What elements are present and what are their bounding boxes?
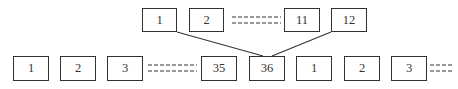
bottom-box-35: 35 <box>201 56 237 81</box>
diagram-canvas: 1 2 11 12 1 2 3 35 36 1 2 3 <box>0 0 458 89</box>
bottom-box-3-repeat: 3 <box>391 56 427 81</box>
connector-lines <box>177 32 331 56</box>
connector-line <box>177 32 263 56</box>
top-box-1: 1 <box>142 8 177 32</box>
top-box-11: 11 <box>284 8 320 32</box>
bottom-box-1: 1 <box>13 56 49 81</box>
connector-line <box>272 32 331 56</box>
bottom-box-3: 3 <box>107 56 143 81</box>
bottom-box-2-repeat: 2 <box>344 56 380 81</box>
top-box-12: 12 <box>331 8 367 32</box>
top-box-2: 2 <box>189 8 224 32</box>
bottom-box-1-repeat: 1 <box>296 56 332 81</box>
bottom-box-2: 2 <box>60 56 96 81</box>
bottom-box-36: 36 <box>249 56 285 81</box>
